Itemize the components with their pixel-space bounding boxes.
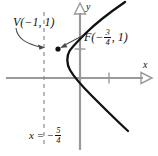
parabola-figure: V(−1, 1) F(−34, 1) x = −54 x y xyxy=(0,0,158,156)
directrix-fraction: 54 xyxy=(55,126,61,144)
focus-fraction-denominator: 4 xyxy=(104,38,110,47)
y-axis xyxy=(75,3,86,150)
focus-point-marker xyxy=(55,46,60,51)
directrix-label: x = −54 xyxy=(29,127,62,145)
y-axis-label: y xyxy=(86,2,90,12)
parabola-curve xyxy=(67,2,128,131)
directrix-fraction-denominator: 4 xyxy=(55,136,61,145)
x-axis-label: x xyxy=(143,60,147,70)
focus-label: F(−34, 1) xyxy=(84,29,128,47)
focus-fraction: 34 xyxy=(104,28,110,46)
focus-label-suffix: , 1) xyxy=(112,30,128,44)
focus-label-prefix: F(− xyxy=(84,30,103,44)
directrix-label-prefix: x = − xyxy=(29,129,54,141)
vertex-label: V(−1, 1) xyxy=(13,16,54,28)
vertex-leader xyxy=(16,28,45,50)
